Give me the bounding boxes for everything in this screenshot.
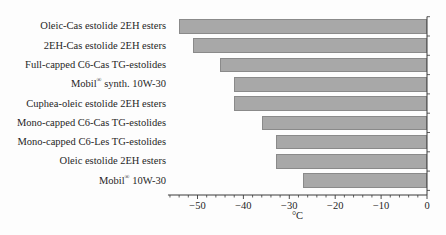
category-label: Full-capped C6-Cas TG-estolides [25, 60, 166, 71]
bar [193, 38, 427, 53]
x-tick-label: −10 [373, 200, 389, 211]
bar [179, 19, 427, 34]
x-axis-label: °C [168, 210, 427, 221]
category-label: Mono-capped C6-Les TG-estolides [17, 137, 166, 148]
category-label: Oleic estolide 2EH esters [60, 156, 166, 167]
category-label: Oleic-Cas estolide 2EH esters [40, 21, 166, 32]
bar [276, 135, 427, 150]
category-label: Cuphea-oleic estolide 2EH esters [26, 98, 166, 109]
bar [276, 154, 427, 169]
bar [262, 116, 427, 131]
bar [234, 77, 427, 92]
category-label: Mono-capped C6-Cas TG-estolides [17, 118, 166, 129]
pour-point-bar-chart: Oleic-Cas estolide 2EH esters2EH-Cas est… [0, 0, 446, 235]
x-tick-label: 0 [424, 200, 429, 211]
x-tick-label: −40 [235, 200, 251, 211]
x-tick-label: −30 [281, 200, 297, 211]
category-label: Mobil® synth. 10W-30 [71, 79, 166, 90]
x-tick-label: −50 [189, 200, 205, 211]
category-label: Mobil® 10W-30 [99, 176, 166, 187]
bar [220, 58, 427, 73]
category-label: 2EH-Cas estolide 2EH esters [44, 40, 166, 51]
x-tick-label: −20 [327, 200, 343, 211]
bar [303, 173, 427, 188]
bar [234, 96, 427, 111]
